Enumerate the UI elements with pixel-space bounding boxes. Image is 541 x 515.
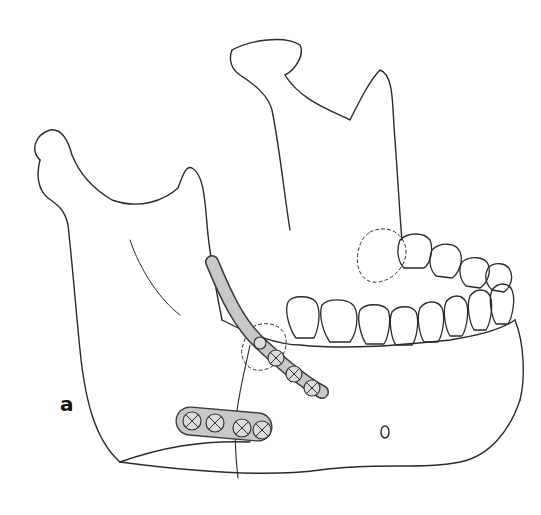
mandible-figure: a	[0, 0, 541, 515]
teeth	[287, 234, 514, 345]
oblique-line-plate	[212, 262, 322, 396]
lower-border-plate	[175, 406, 273, 442]
panel-label: a	[60, 392, 74, 416]
mandible-illustration	[0, 0, 541, 515]
near-ramus	[35, 130, 222, 320]
far-ramus	[232, 40, 402, 240]
